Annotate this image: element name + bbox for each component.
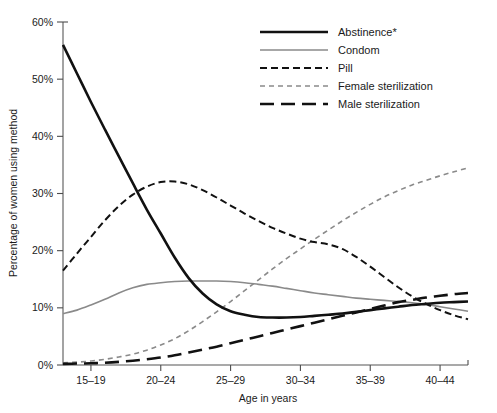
chart-background	[0, 0, 497, 413]
y-tick-label: 50%	[32, 73, 53, 85]
x-tick-label: 35–39	[356, 374, 385, 386]
x-tick-label: 40–44	[425, 374, 454, 386]
x-tick-label: 20–24	[146, 374, 175, 386]
y-tick-label: 0%	[38, 359, 53, 371]
chart-container: 0%10%20%30%40%50%60% 15–1920–2425–2930–3…	[0, 0, 497, 413]
y-tick-label: 40%	[32, 130, 53, 142]
line-chart: 0%10%20%30%40%50%60% 15–1920–2425–2930–3…	[0, 0, 497, 413]
legend-label-1: Abstinence*	[338, 26, 397, 38]
y-tick-label: 60%	[32, 16, 53, 28]
y-tick-label: 10%	[32, 301, 53, 313]
y-tick-label: 30%	[32, 187, 53, 199]
legend-label-3: Pill	[338, 62, 353, 74]
y-axis-title: Percentage of women using method	[7, 109, 19, 277]
y-tick-label: 20%	[32, 244, 53, 256]
legend-label-2: Condom	[338, 44, 380, 56]
x-tick-label: 15–19	[76, 374, 105, 386]
x-tick-label: 25–29	[216, 374, 245, 386]
x-tick-label: 30–34	[286, 374, 315, 386]
legend-label-4: Female sterilization	[338, 80, 433, 92]
legend-label-5: Male sterilization	[338, 98, 420, 110]
x-axis-title: Age in years	[239, 392, 297, 404]
